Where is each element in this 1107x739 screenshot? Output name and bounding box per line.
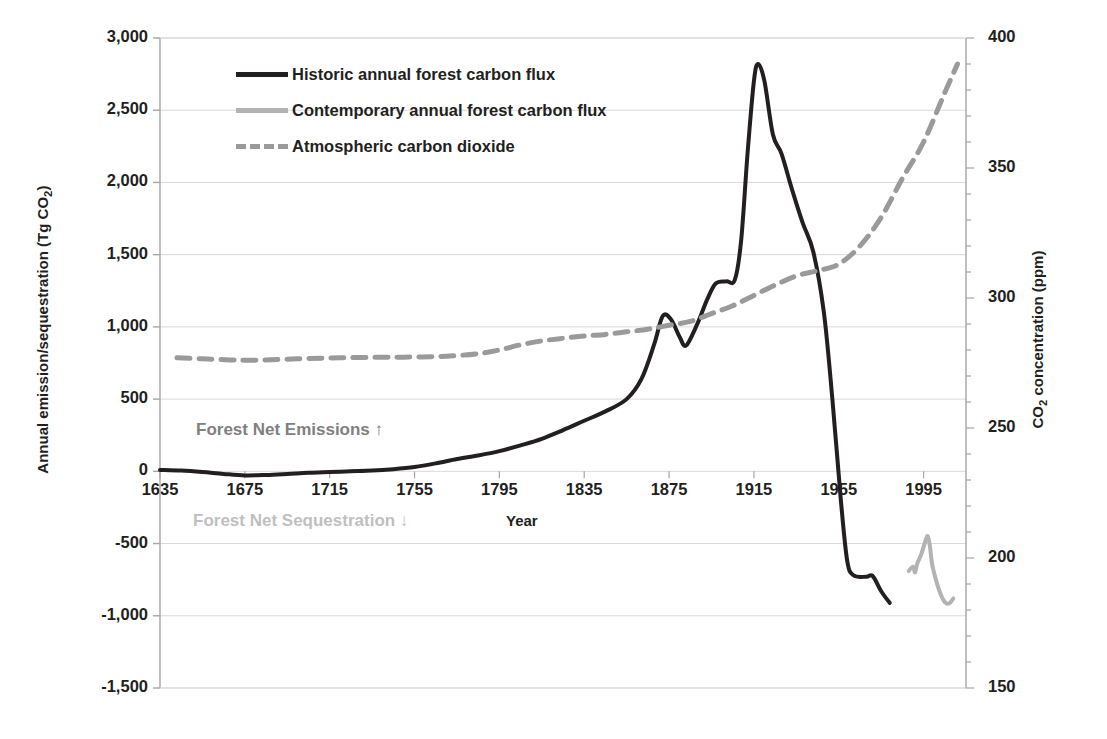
legend-item-co2: Atmospheric carbon dioxide <box>236 128 606 164</box>
series-line-1 <box>909 536 954 604</box>
chart-figure: Annual emission/sequestration (Tg CO2) C… <box>0 0 1107 739</box>
solid-gray-line-swatch-icon <box>236 104 288 116</box>
dashed-gray-line-swatch-icon <box>236 140 288 152</box>
solid-dark-line-swatch-icon <box>236 68 288 80</box>
legend-label-co2: Atmospheric carbon dioxide <box>292 137 515 156</box>
legend-label-historic: Historic annual forest carbon flux <box>292 65 555 84</box>
annotation-forest-net-emissions: Forest Net Emissions ↑ <box>196 420 383 440</box>
legend-label-contemporary: Contemporary annual forest carbon flux <box>292 101 606 120</box>
annotation-forest-net-sequestration: Forest Net Sequestration ↓ <box>193 511 408 531</box>
legend-item-historic: Historic annual forest carbon flux <box>236 56 606 92</box>
legend-item-contemporary: Contemporary annual forest carbon flux <box>236 92 606 128</box>
chart-legend: Historic annual forest carbon flux Conte… <box>236 56 606 164</box>
